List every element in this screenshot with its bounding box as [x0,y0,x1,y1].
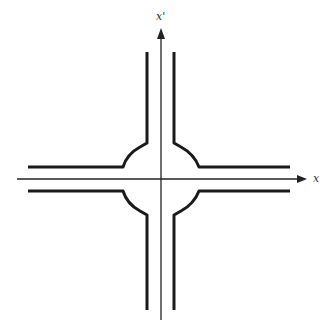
road-edge-top-left [28,52,147,167]
diagram-canvas: x' x [0,0,335,333]
axes [17,36,300,320]
intersection-diagram [0,0,335,333]
road-edge-bottom-right [174,191,290,310]
road-edge-bottom-left [28,191,147,310]
road-edge-top-right [174,52,290,167]
x-axis-label: x [313,172,319,185]
x-axis-arrow-icon [297,175,307,183]
y-axis-label: x' [156,10,165,23]
y-axis-arrow-icon [157,28,165,39]
road-outline [28,52,290,310]
